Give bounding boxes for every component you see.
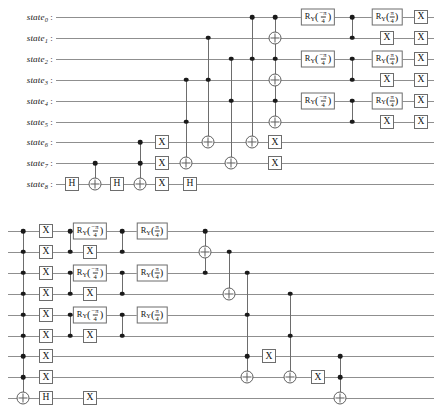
control-dot-q1[interactable]	[350, 36, 355, 41]
control-dot-q0[interactable]	[250, 15, 255, 20]
gate-X-q3[interactable]: X	[39, 287, 53, 301]
gate-X-q8[interactable]: X	[155, 177, 169, 191]
gate-H-q8[interactable]: H	[183, 177, 197, 191]
gate-RY(pi/4)-q0[interactable]: RY (π4)	[137, 223, 168, 240]
control-dot-q4[interactable]	[350, 98, 355, 103]
gate-X-q6[interactable]: X	[39, 349, 53, 363]
gate-RY(pi/4)-q4[interactable]: RY (π4)	[372, 92, 403, 109]
control-dot-q5[interactable]	[120, 333, 125, 338]
gate-X-q2[interactable]: X	[414, 52, 428, 66]
control-dot-q2[interactable]	[245, 271, 250, 276]
gate-X-q7[interactable]: X	[39, 370, 53, 384]
gate-X-q7[interactable]: X	[311, 370, 325, 384]
cnot-target-q3[interactable]	[223, 287, 236, 300]
gate-X-q6[interactable]: X	[268, 135, 282, 149]
gate-X-q7[interactable]: X	[268, 156, 282, 170]
gate-X-q1[interactable]: X	[83, 245, 97, 259]
gate-X-q1[interactable]: X	[414, 31, 428, 45]
cnot-target-q7[interactable]	[225, 157, 238, 170]
control-dot-q0[interactable]	[273, 15, 278, 20]
control-dot-q4[interactable]	[273, 98, 278, 103]
gate-RY(pi/4)-q0[interactable]: RY (π4)	[372, 9, 403, 26]
gate-H-q8[interactable]: H	[39, 391, 53, 405]
control-dot-q4[interactable]	[229, 98, 234, 103]
gate-X-q6[interactable]: X	[155, 135, 169, 149]
gate-X-q6[interactable]: X	[262, 349, 276, 363]
control-dot-q6[interactable]	[338, 354, 343, 359]
gate-RY(-pi/4)-q4[interactable]: RY (−π4)	[301, 92, 335, 109]
gate-X-q5[interactable]: X	[414, 115, 428, 129]
cnot-target-q6[interactable]	[202, 136, 215, 149]
cnot-target-q1[interactable]	[269, 31, 282, 44]
control-dot-q3[interactable]	[350, 77, 355, 82]
gate-RY(pi/4)-q2[interactable]: RY (π4)	[137, 264, 168, 281]
control-dot-q3[interactable]	[206, 77, 211, 82]
cnot-target-q8[interactable]	[334, 392, 347, 405]
control-dot-q4[interactable]	[120, 312, 125, 317]
gate-H-q8[interactable]: H	[110, 177, 124, 191]
gate-X-q3[interactable]: X	[414, 73, 428, 87]
control-dot-q2[interactable]	[350, 57, 355, 62]
control-dot-q0[interactable]	[68, 229, 73, 234]
control-dot-q6[interactable]	[245, 354, 250, 359]
gate-X-q4[interactable]: X	[414, 94, 428, 108]
gate-RY(-pi/4)-q2[interactable]: RY (−π4)	[301, 50, 335, 67]
control-dot-q0[interactable]	[350, 15, 355, 20]
gate-RY(-pi/4)-q4[interactable]: RY (−π4)	[73, 306, 107, 323]
control-dot-q7[interactable]	[338, 375, 343, 380]
gate-RY(pi/4)-q4[interactable]: RY (π4)	[137, 306, 168, 323]
gate-X-q5[interactable]: X	[380, 115, 394, 129]
control-dot-q5[interactable]	[288, 333, 293, 338]
control-dot-q4[interactable]	[68, 312, 73, 317]
cnot-target-q6[interactable]	[246, 136, 259, 149]
control-dot-q5[interactable]	[350, 119, 355, 124]
control-dot-q2[interactable]	[229, 57, 234, 62]
control-dot-q7[interactable]	[93, 161, 98, 166]
cnot-target-q7[interactable]	[284, 371, 297, 384]
control-dot-q2[interactable]	[250, 57, 255, 62]
control-dot-q2[interactable]	[203, 271, 208, 276]
gate-RY(-pi/4)-q0[interactable]: RY (−π4)	[301, 9, 335, 26]
gate-X-q1[interactable]: X	[380, 31, 394, 45]
cnot-target-q7[interactable]	[241, 371, 254, 384]
control-dot-q3[interactable]	[21, 291, 26, 296]
control-dot-q1[interactable]	[68, 250, 73, 255]
gate-X-q0[interactable]: X	[39, 224, 53, 238]
gate-X-q2[interactable]: X	[39, 266, 53, 280]
gate-RY(-pi/4)-q0[interactable]: RY (−π4)	[73, 223, 107, 240]
control-dot-q2[interactable]	[120, 271, 125, 276]
cnot-target-q7[interactable]	[180, 157, 193, 170]
control-dot-q0[interactable]	[21, 229, 26, 234]
control-dot-q1[interactable]	[120, 250, 125, 255]
gate-H-q8[interactable]: H	[65, 177, 79, 191]
control-dot-q4[interactable]	[21, 312, 26, 317]
control-dot-q5[interactable]	[184, 119, 189, 124]
control-dot-q1[interactable]	[21, 250, 26, 255]
gate-RY(pi/4)-q2[interactable]: RY (π4)	[372, 50, 403, 67]
control-dot-q2[interactable]	[21, 271, 26, 276]
control-dot-q6[interactable]	[21, 354, 26, 359]
control-dot-q0[interactable]	[203, 229, 208, 234]
control-dot-q3[interactable]	[288, 291, 293, 296]
gate-X-q0[interactable]: X	[414, 10, 428, 24]
gate-X-q7[interactable]: X	[155, 156, 169, 170]
control-dot-q2[interactable]	[68, 271, 73, 276]
cnot-target-q1[interactable]	[199, 245, 212, 258]
control-dot-q5[interactable]	[21, 333, 26, 338]
cnot-target-q5[interactable]	[269, 115, 282, 128]
gate-X-q1[interactable]: X	[39, 245, 53, 259]
control-dot-q7[interactable]	[21, 375, 26, 380]
gate-X-q3[interactable]: X	[380, 73, 394, 87]
gate-X-q5[interactable]: X	[39, 329, 53, 343]
cnot-target-q8[interactable]	[89, 178, 102, 191]
control-dot-q0[interactable]	[120, 229, 125, 234]
control-dot-q1[interactable]	[206, 36, 211, 41]
gate-X-q3[interactable]: X	[83, 287, 97, 301]
gate-X-q4[interactable]: X	[39, 308, 53, 322]
gate-X-q8[interactable]: X	[83, 391, 97, 405]
gate-X-q5[interactable]: X	[83, 329, 97, 343]
control-dot-q1[interactable]	[227, 250, 232, 255]
cnot-target-q8[interactable]	[17, 392, 30, 405]
control-dot-q3[interactable]	[68, 291, 73, 296]
control-dot-q6[interactable]	[138, 140, 143, 145]
